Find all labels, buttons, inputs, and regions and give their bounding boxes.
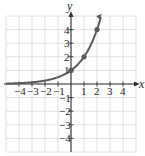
y-tick-label: 2 <box>64 51 70 63</box>
function-curve <box>6 17 101 84</box>
y-tick-label: 4 <box>64 24 70 36</box>
y-axis-label: y <box>66 0 73 13</box>
y-tick-label: 3 <box>64 37 70 49</box>
y-tick-label: −1 <box>59 92 71 104</box>
x-tick-label: −3 <box>27 85 39 97</box>
x-tick-label: 3 <box>107 85 113 97</box>
data-point <box>94 27 99 32</box>
x-tick-label: 2 <box>94 85 100 97</box>
x-tick-label: −2 <box>40 85 52 97</box>
y-tick-label: −3 <box>59 119 71 131</box>
x-tick-label: −4 <box>14 85 26 97</box>
axes <box>4 11 140 152</box>
exponential-graph: −4−3−2−112344321−1−2−3−4 x y <box>0 0 145 156</box>
data-point <box>68 68 73 73</box>
y-tick-label: −2 <box>59 105 71 117</box>
data-point <box>81 54 86 59</box>
x-axis-label: x <box>138 77 145 91</box>
x-tick-label: 4 <box>120 85 126 97</box>
y-tick-label: −4 <box>59 132 71 144</box>
x-tick-label: 1 <box>81 85 87 97</box>
